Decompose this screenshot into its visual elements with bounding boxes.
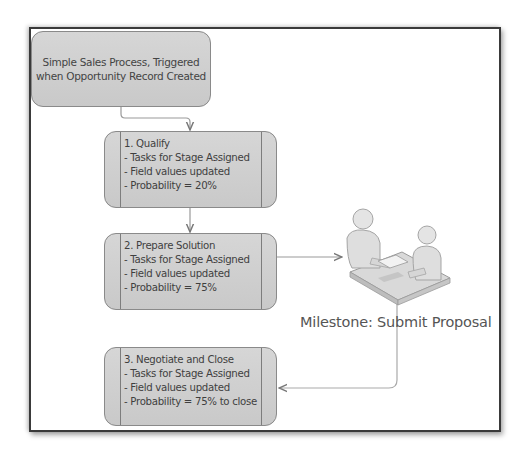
stage-item: - Field values updated	[124, 267, 250, 281]
stage-item: - Tasks for Stage Assigned	[124, 253, 250, 267]
stage-right-bar	[261, 132, 262, 207]
stage-qualify: 1. Qualify - Tasks for Stage Assigned - …	[104, 131, 277, 208]
stage-right-bar	[261, 234, 262, 309]
stage-negotiate-close: 3. Negotiate and Close - Tasks for Stage…	[104, 347, 277, 426]
stage-left-bar	[120, 132, 121, 207]
stage-right-bar	[261, 348, 262, 425]
milestone-label: Milestone: Submit Proposal	[300, 314, 492, 330]
stage-item: - Probability = 20%	[124, 179, 250, 193]
stage-title: 3. Negotiate and Close	[124, 353, 257, 367]
meeting-people-icon	[347, 209, 450, 305]
connector-start-to-qualify	[121, 106, 190, 130]
stage-title: 2. Prepare Solution	[124, 239, 250, 253]
start-line-1: Simple Sales Process, Triggered	[36, 55, 206, 69]
stage-item: - Field values updated	[124, 165, 250, 179]
start-node: Simple Sales Process, Triggered when Opp…	[31, 31, 211, 107]
stage-left-bar	[120, 234, 121, 309]
start-line-2: when Opportunity Record Created	[36, 69, 206, 83]
stage-item: - Probability = 75%	[124, 281, 250, 295]
stage-item: - Probability = 75% to close	[124, 395, 257, 409]
stage-item: - Field values updated	[124, 381, 257, 395]
stage-item: - Tasks for Stage Assigned	[124, 367, 257, 381]
stage-prepare-solution: 2. Prepare Solution - Tasks for Stage As…	[104, 233, 277, 310]
stage-title: 1. Qualify	[124, 137, 250, 151]
stage-left-bar	[120, 348, 121, 425]
stage-item: - Tasks for Stage Assigned	[124, 151, 250, 165]
